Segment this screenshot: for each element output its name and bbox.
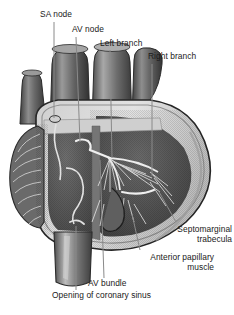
right-auricle-group xyxy=(8,124,48,230)
label-av-bundle: AV bundle xyxy=(88,279,126,289)
label-septomarginal-trabecula: Septomarginal trabecula xyxy=(0,225,232,244)
label-right-branch: Right branch xyxy=(148,52,196,62)
label-opening-of-coronary-sinus: Opening of coronary sinus xyxy=(52,291,151,301)
label-av-node: AV node xyxy=(72,25,104,35)
label-left-branch: Left branch xyxy=(100,39,142,49)
pulmonary-vein-rim xyxy=(22,70,42,76)
right-atrium-texture xyxy=(44,120,96,235)
sa-node-marker xyxy=(50,116,61,123)
superior-vena-cava-rim xyxy=(52,45,88,54)
anatomy-figure: SA node AV node Left branch Right branch… xyxy=(0,0,234,315)
label-anterior-papillary-muscle: Anterior papillary muscle xyxy=(0,253,214,272)
label-sa-node: SA node xyxy=(40,10,72,20)
interventricular-septum xyxy=(92,126,100,240)
